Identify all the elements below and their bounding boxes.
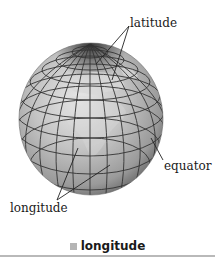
caption-text: longitude <box>81 239 146 253</box>
globe <box>14 43 167 195</box>
longitude-label: longitude <box>10 201 68 215</box>
latitude-label: latitude <box>130 16 177 30</box>
figure-caption: longitude <box>0 238 215 254</box>
globe-diagram: latitude equator longitude <box>0 0 215 236</box>
divider-rule <box>0 255 215 257</box>
caption-swatch-icon <box>70 243 77 250</box>
equator-label: equator <box>164 159 212 173</box>
